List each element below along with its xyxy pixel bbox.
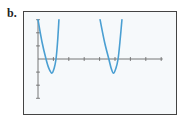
curves <box>38 20 122 73</box>
function-graph <box>0 0 186 123</box>
curve-branch-1 <box>38 20 59 73</box>
axes <box>36 20 163 99</box>
curve-branch-2 <box>100 20 122 73</box>
